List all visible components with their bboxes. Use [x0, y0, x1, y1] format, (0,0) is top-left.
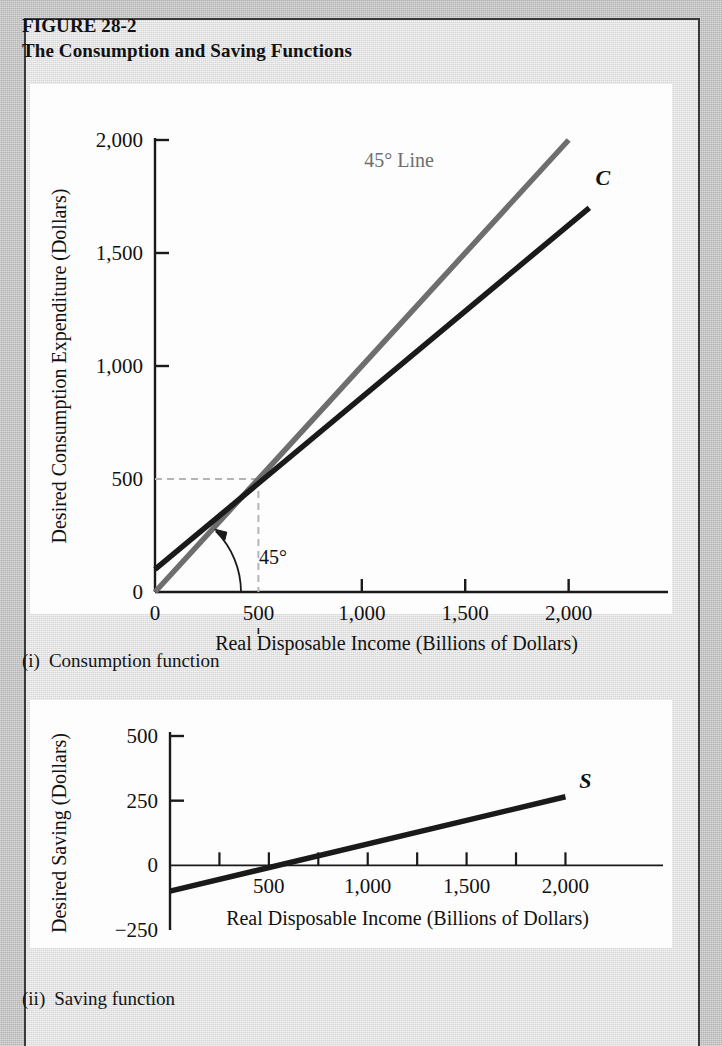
caption-saving-text: Saving function [54, 988, 175, 1009]
x-tick-label: 500 [243, 601, 275, 625]
caption-saving: (ii)Saving function [22, 988, 175, 1010]
y-tick-label: 1,500 [96, 241, 143, 265]
y-tick-label: 2,000 [96, 128, 143, 152]
angle-arrow-head [215, 529, 227, 540]
figure-page: FIGURE 28-2 The Consumption and Saving F… [0, 0, 722, 1046]
figure-title-block: FIGURE 28-2 The Consumption and Saving F… [22, 14, 352, 63]
x-tick-label: 1,500 [443, 874, 490, 898]
y-tick-label: 0 [133, 580, 144, 604]
y-tick-label: 0 [148, 853, 159, 877]
x-tick-label: 1,000 [338, 601, 385, 625]
y-tick-label: 500 [127, 724, 159, 748]
x-tick-label: 2,000 [542, 874, 589, 898]
y-tick-label: 250 [127, 789, 159, 813]
x-tick-label: 1,500 [442, 601, 489, 625]
caption-consumption-text: Consumption function [49, 650, 219, 671]
x-axis-title: Real Disposable Income (Billions of Doll… [215, 632, 578, 655]
figure-number: FIGURE 28-2 [22, 14, 352, 39]
y-axis-title: Desired Consumption Expenditure (Dollars… [48, 189, 71, 544]
angle-label: 45° [259, 546, 287, 568]
consumption-function-chart: 05001,0001,5002,00005001,0001,5002,00045… [30, 84, 672, 659]
forty-five-degree-line-label: 45° Line [364, 149, 434, 171]
y-tick-label: 1,000 [96, 354, 143, 378]
y-tick-label: −250 [115, 918, 158, 942]
y-axis-title: Desired Saving (Dollars) [48, 733, 71, 933]
x-tick-label: 500 [253, 874, 285, 898]
saving-function-chart: −25002505005001,0001,5002,000SReal Dispo… [30, 690, 672, 970]
forty-five-degree-line [155, 140, 569, 592]
saving-curve-label: S [579, 768, 591, 793]
caption-saving-number: (ii) [22, 988, 45, 1010]
caption-consumption: (i)Consumption function [22, 650, 219, 672]
consumption-function-line [155, 208, 589, 570]
x-tick-label: 1,000 [344, 874, 391, 898]
figure-title: The Consumption and Saving Functions [22, 39, 352, 64]
x-tick-label: 2,000 [545, 601, 592, 625]
caption-consumption-number: (i) [22, 650, 40, 672]
consumption-curve-label: C [596, 165, 611, 190]
y-tick-label: 500 [112, 467, 144, 491]
x-axis-title: Real Disposable Income (Billions of Doll… [226, 907, 589, 930]
angle-arc [216, 531, 241, 592]
x-tick-label: 0 [150, 601, 161, 625]
